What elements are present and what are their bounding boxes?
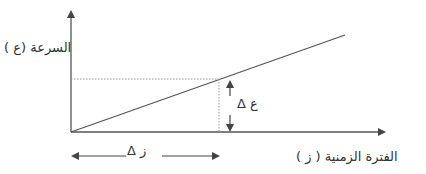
velocity-time-diagram [0,0,426,174]
x-axis-label: الفترة الزمنية ( ز ) [296,149,398,164]
delta-velocity-label: Δ ع [237,96,258,111]
y-axis-label: السرعة (ع ) [4,40,71,55]
delta-time-label: Δ ز [127,143,146,158]
velocity-line [71,35,345,132]
